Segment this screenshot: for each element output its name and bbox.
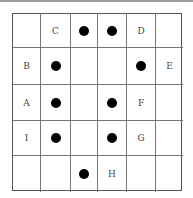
grid-cell <box>71 48 98 85</box>
dot-icon <box>79 169 89 179</box>
grid-cell: E <box>156 48 183 85</box>
grid-cell <box>127 156 156 192</box>
grid-cell: B <box>13 48 41 85</box>
grid-cell <box>156 14 183 48</box>
grid-cell <box>13 156 41 192</box>
grid-cell <box>41 156 71 192</box>
grid-cell <box>98 121 127 156</box>
grid-cell: C <box>41 14 71 48</box>
dot-icon <box>51 61 61 71</box>
grid-cell: A <box>13 85 41 121</box>
cell-label: B <box>23 61 30 71</box>
grid-cell <box>98 48 127 85</box>
dot-icon <box>107 98 117 108</box>
grid-cell <box>13 14 41 48</box>
dot-icon <box>107 26 117 36</box>
grid-cell <box>156 85 183 121</box>
cell-label: H <box>108 169 116 179</box>
top-rule <box>0 0 193 2</box>
grid-cell <box>71 85 98 121</box>
grid-cell <box>41 121 71 156</box>
grid-cell: F <box>127 85 156 121</box>
grid-cell <box>71 121 98 156</box>
cell-label: E <box>166 61 173 71</box>
cell-label: D <box>137 26 144 36</box>
grid-cell <box>156 121 183 156</box>
grid-cell <box>127 48 156 85</box>
grid-cell <box>41 48 71 85</box>
cell-label: A <box>23 98 30 108</box>
dot-icon <box>79 26 89 36</box>
cell-label: F <box>138 98 144 108</box>
grid-cell: D <box>127 14 156 48</box>
grid-cell <box>41 85 71 121</box>
grid-cell <box>71 14 98 48</box>
dot-icon <box>51 133 61 143</box>
dot-icon <box>51 98 61 108</box>
dot-grid: C D B E A F I G H <box>12 13 182 191</box>
dot-icon <box>136 61 146 71</box>
grid-cell: H <box>98 156 127 192</box>
cell-label: I <box>25 133 29 143</box>
dot-icon <box>107 133 117 143</box>
grid-cell <box>98 85 127 121</box>
grid-cell <box>98 14 127 48</box>
grid-cell <box>71 156 98 192</box>
grid-cell <box>156 156 183 192</box>
grid-cell: G <box>127 121 156 156</box>
grid-cell: I <box>13 121 41 156</box>
cell-label: C <box>52 26 59 36</box>
cell-label: G <box>137 133 144 143</box>
